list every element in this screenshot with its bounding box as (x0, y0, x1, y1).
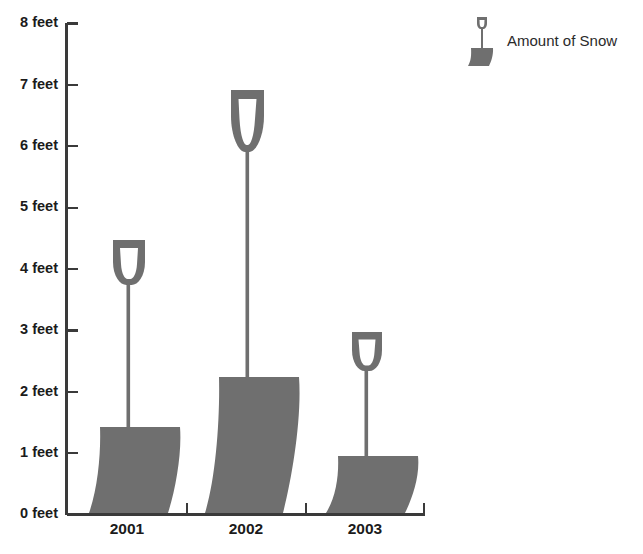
y-tick-label-1: 1 feet (20, 444, 58, 460)
shovel-bar-2003 (326, 332, 418, 513)
shovel-shaft-2001 (127, 274, 131, 428)
shovel-bar-2001 (89, 240, 180, 513)
y-tick-label-6: 6 feet (20, 137, 58, 153)
y-axis: 8 feet 7 feet 6 feet 5 feet 4 feet 3 fee… (20, 14, 78, 521)
shovel-blade-2003 (326, 456, 418, 513)
shovel-shaft-2003 (365, 362, 369, 457)
shovel-blade-2002 (205, 377, 300, 513)
y-tick-label-8: 8 feet (20, 14, 58, 30)
legend-shovel-blade (468, 48, 493, 66)
y-tick-label-2: 2 feet (20, 383, 58, 399)
chart-page: 8 feet 7 feet 6 feet 5 feet 4 feet 3 fee… (0, 0, 643, 554)
legend-label-amount-of-snow: Amount of Snow (507, 32, 617, 49)
x-tick-label-2002: 2002 (229, 520, 263, 537)
y-tick-label-4: 4 feet (20, 260, 58, 276)
legend-shovel-shaft (481, 28, 483, 50)
legend: Amount of Snow (468, 17, 617, 66)
y-tick-label-3: 3 feet (20, 321, 58, 337)
snow-shovel-bar-chart: 8 feet 7 feet 6 feet 5 feet 4 feet 3 fee… (0, 0, 643, 554)
snow-shovel-icon (468, 17, 493, 66)
y-tick-label-0: 0 feet (20, 505, 58, 521)
shovel-blade-2001 (89, 427, 180, 513)
x-tick-label-2003: 2003 (348, 520, 383, 537)
y-tick-label-5: 5 feet (20, 198, 58, 214)
shovel-shaft-2002 (246, 125, 250, 379)
shovel-bar-2002 (205, 90, 300, 513)
legend-shovel-handle-hole (480, 20, 485, 27)
x-tick-label-2001: 2001 (110, 520, 145, 537)
y-tick-label-7: 7 feet (20, 76, 58, 92)
